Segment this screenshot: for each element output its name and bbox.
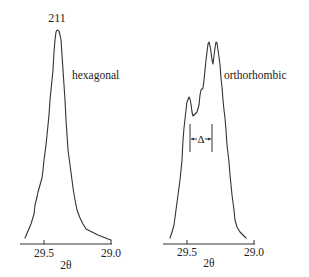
- right-tick-label-29-0: 29.0: [244, 246, 264, 258]
- peak-label-211: 211: [48, 11, 66, 25]
- delta-arrowhead-right-icon: [208, 138, 211, 141]
- hexagonal-label: hexagonal: [72, 69, 119, 82]
- left-tick-label-29-0: 29.0: [101, 247, 121, 259]
- delta-splitting-marker: Δ: [190, 124, 212, 152]
- delta-arrowhead-left-icon: [191, 138, 194, 141]
- left-axis-label-2theta: 2θ: [60, 259, 72, 271]
- left-tick-label-29-5: 29.5: [34, 247, 54, 259]
- hexagonal-peak-curve: [25, 30, 111, 240]
- diffraction-figure: 211 hexagonal 29.5 29.0 2θ Δ orthorhombi…: [0, 0, 309, 277]
- right-panel-orthorhombic: Δ orthorhombic 29.5 29.0 2θ: [163, 42, 287, 269]
- right-tick-label-29-5: 29.5: [177, 246, 197, 258]
- orthorhombic-label: orthorhombic: [224, 69, 287, 81]
- delta-label: Δ: [197, 133, 204, 145]
- left-panel-hexagonal: 211 hexagonal 29.5 29.0 2θ: [20, 11, 121, 271]
- right-axis-label-2theta: 2θ: [203, 257, 215, 269]
